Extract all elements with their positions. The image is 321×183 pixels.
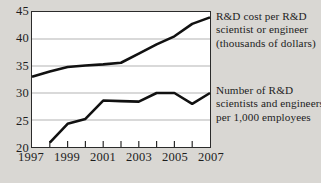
series-lines: [32, 12, 210, 147]
legend-lower-line-1: Number of R&D: [216, 84, 320, 97]
x-tick-label: 2005: [162, 150, 188, 165]
y-tick-label: 25: [1, 114, 29, 127]
legend-upper-line-2: scientist or engineer: [216, 23, 320, 36]
x-tick-label: 1997: [18, 150, 44, 165]
chart-root: 202530354045 199719992001200320052007 R&…: [0, 0, 321, 183]
data-line: [32, 17, 210, 76]
legend-upper-series: R&D cost per R&D scientist or engineer (…: [216, 10, 320, 50]
x-tick-label: 2003: [126, 150, 152, 165]
legend-upper-line-1: R&D cost per R&D: [216, 10, 320, 23]
x-tick-label: 2001: [90, 150, 116, 165]
x-axis: 199719992001200320052007: [31, 150, 211, 172]
y-tick-label: 45: [1, 5, 29, 18]
data-line: [50, 93, 210, 143]
y-tick-label: 40: [1, 32, 29, 45]
legend-lower-line-2: scientists and engineers: [216, 97, 320, 110]
legend-lower-line-3: per 1,000 employees: [216, 111, 320, 124]
legend-upper-line-3: (thousands of dollars): [216, 37, 320, 50]
y-tick-label: 35: [1, 60, 29, 73]
x-tick-label: 2007: [198, 150, 224, 165]
y-tick-label: 30: [1, 87, 29, 100]
plot-area: [31, 11, 211, 148]
legend-lower-series: Number of R&D scientists and engineers p…: [216, 84, 320, 124]
x-tick-label: 1999: [54, 150, 80, 165]
